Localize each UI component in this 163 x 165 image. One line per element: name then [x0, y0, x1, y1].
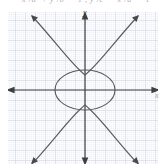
figure-root: x²/a² + y²/b² = 1 , y²/c² − x²/d² = 1 — [0, 0, 163, 165]
equation-text: x²/a² + y²/b² = 1 , y²/c² − x²/d² = 1 — [22, 0, 150, 4]
y-axis-label: y — [83, 9, 87, 17]
coordinate-plane — [8, 12, 158, 164]
axes — [8, 13, 158, 164]
y-axis-arrow-down — [83, 158, 88, 164]
x-axis-label: x — [155, 92, 159, 100]
x-axis-arrow-left — [8, 88, 14, 93]
curves-and-axes — [8, 12, 158, 164]
